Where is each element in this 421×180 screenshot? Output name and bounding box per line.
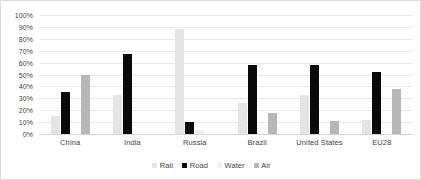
legend-item-water[interactable]: Water	[217, 161, 245, 170]
x-axis-tick-label: EU28	[372, 138, 391, 147]
bar-china-rail[interactable]	[51, 116, 60, 134]
y-axis-tick-label: 50%	[19, 71, 33, 78]
y-axis-tick-label: 20%	[19, 107, 33, 114]
bar-group-bars	[164, 15, 226, 134]
bar-india-rail[interactable]	[113, 95, 122, 134]
legend-label: Road	[190, 161, 208, 170]
x-axis-line	[39, 134, 413, 135]
bar-india-road[interactable]	[123, 54, 132, 134]
y-axis-tick-label: 70%	[19, 47, 33, 54]
bar-brazil-rail[interactable]	[238, 103, 247, 134]
bar-russia-water[interactable]	[195, 130, 204, 134]
legend-label: Air	[261, 161, 270, 170]
legend-swatch-icon	[217, 163, 222, 168]
bar-group	[288, 15, 350, 134]
y-axis-tick-label: 40%	[19, 83, 33, 90]
x-axis-tick-label: India	[124, 138, 141, 147]
bar-russia-road[interactable]	[185, 122, 194, 134]
x-axis-tick-label: China	[60, 138, 80, 147]
chart-container: 0%10%20%30%40%50%60%70%80%90%100% ChinaI…	[0, 0, 421, 180]
bar-eu28-rail[interactable]	[362, 120, 371, 134]
y-axis-tick-label: 100%	[15, 12, 33, 19]
bar-brazil-air[interactable]	[268, 113, 277, 134]
chart-legend: RailRoadWaterAir	[1, 161, 421, 170]
bar-group	[101, 15, 163, 134]
y-axis: 0%10%20%30%40%50%60%70%80%90%100%	[1, 15, 37, 134]
legend-item-road[interactable]: Road	[182, 161, 208, 170]
y-axis-tick-label: 30%	[19, 95, 33, 102]
bar-united-states-rail[interactable]	[300, 95, 309, 134]
legend-item-rail[interactable]: Rail	[152, 161, 173, 170]
bar-eu28-air[interactable]	[392, 89, 401, 134]
bar-group	[39, 15, 101, 134]
bar-china-road[interactable]	[61, 92, 70, 134]
bar-china-air[interactable]	[81, 75, 90, 135]
bar-group-bars	[39, 15, 101, 134]
legend-label: Rail	[160, 161, 173, 170]
legend-swatch-icon	[182, 163, 187, 168]
x-axis-tick-label: Brazil	[247, 138, 266, 147]
y-axis-tick-label: 10%	[19, 119, 33, 126]
bar-united-states-air[interactable]	[330, 121, 339, 134]
bar-group-bars	[288, 15, 350, 134]
bar-group-bars	[351, 15, 413, 134]
legend-swatch-icon	[152, 163, 157, 168]
bar-group	[351, 15, 413, 134]
plot-area	[39, 15, 413, 134]
bar-united-states-road[interactable]	[310, 65, 319, 134]
bar-group	[164, 15, 226, 134]
bar-group-bars	[226, 15, 288, 134]
y-axis-tick-label: 90%	[19, 23, 33, 30]
y-axis-tick-label: 80%	[19, 35, 33, 42]
x-axis: ChinaIndiaRussiaBrazilUnited StatesEU28	[39, 136, 413, 152]
y-axis-tick-label: 60%	[19, 59, 33, 66]
legend-item-air[interactable]: Air	[254, 161, 271, 170]
x-axis-tick-label: United States	[296, 138, 342, 147]
legend-swatch-icon	[254, 163, 259, 168]
bar-group-bars	[101, 15, 163, 134]
bar-eu28-road[interactable]	[372, 72, 381, 134]
bar-brazil-road[interactable]	[248, 65, 257, 134]
y-axis-tick-label: 0%	[23, 131, 33, 138]
x-axis-tick-label: Russia	[183, 138, 207, 147]
legend-label: Water	[224, 161, 244, 170]
bar-group	[226, 15, 288, 134]
bar-russia-rail[interactable]	[175, 29, 184, 134]
